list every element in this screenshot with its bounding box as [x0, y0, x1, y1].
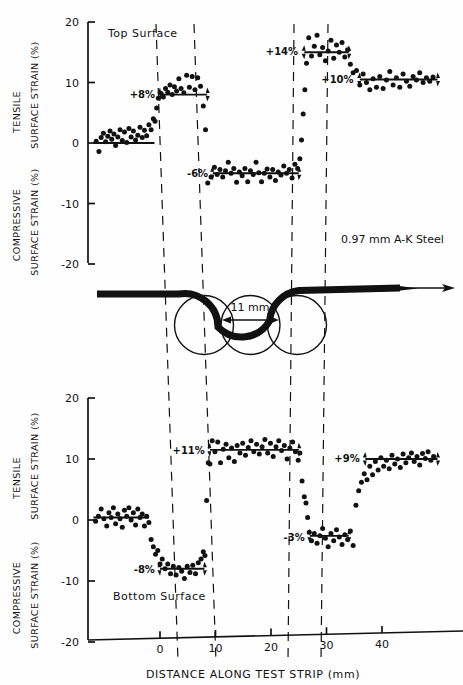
top-axis-label-compressive: COMPRESSIVE [11, 189, 22, 261]
data-point [320, 45, 325, 50]
data-point [412, 459, 417, 464]
data-point [381, 86, 386, 91]
data-point [299, 137, 304, 142]
data-point [348, 62, 353, 67]
data-point [254, 442, 259, 447]
bottom-y-tick-label-20: 20 [65, 392, 79, 405]
data-point [215, 172, 220, 177]
data-point [190, 563, 195, 568]
data-point [420, 451, 425, 456]
data-point [345, 47, 350, 52]
plateau-arrow-1-4-1 [436, 452, 440, 458]
top-y-tick-label-10: 10 [65, 77, 79, 90]
data-point [118, 516, 123, 521]
data-point [276, 438, 281, 443]
material-note-label: 0.97 mm A-K Steel [341, 233, 444, 246]
data-point [163, 566, 168, 571]
data-point [187, 570, 192, 575]
data-point [115, 134, 120, 139]
data-point [307, 530, 312, 535]
data-point [245, 179, 250, 184]
figure-root: 20100-10-2020100-10-20010203040+8%-6%+14… [0, 0, 463, 685]
data-point [295, 166, 300, 171]
data-point [376, 467, 381, 472]
data-point [254, 160, 259, 165]
data-point [356, 488, 361, 493]
data-point [243, 453, 248, 458]
bottom-axis-label-compressive: COMPRESSIVE [11, 562, 22, 634]
data-point [99, 507, 104, 512]
data-point [290, 439, 295, 444]
data-point [262, 437, 267, 442]
data-point [271, 454, 276, 459]
projection-line-3 [321, 24, 328, 662]
data-point [340, 40, 345, 45]
data-point [113, 143, 118, 148]
top-y-tick-label-0: 0 [72, 137, 79, 150]
data-point [398, 465, 403, 470]
data-point [305, 515, 310, 520]
data-point [392, 461, 397, 466]
data-point [260, 444, 265, 449]
data-point [414, 78, 419, 83]
data-point [359, 480, 364, 485]
data-point [202, 553, 207, 558]
data-point [240, 173, 245, 178]
data-point [149, 537, 154, 542]
bottom-surface-label: Bottom Surface [113, 590, 206, 603]
gap-dimension-label: 11 mm [231, 301, 270, 314]
data-point [240, 441, 245, 446]
bottom-x-tick-label-0: 0 [157, 643, 164, 656]
data-point [179, 86, 184, 91]
plateau-annotation-top-1: -6% [187, 168, 208, 179]
data-point [270, 167, 275, 172]
data-point [218, 460, 223, 465]
data-point [431, 454, 436, 459]
data-point [409, 450, 414, 455]
data-point [334, 527, 339, 532]
data-point [146, 122, 151, 127]
plateau-arrow-b-1-1-1 [203, 570, 207, 576]
data-point [423, 456, 428, 461]
data-point [334, 42, 339, 47]
data-point [362, 471, 367, 476]
data-point [231, 166, 236, 171]
data-point [361, 72, 366, 77]
data-point [427, 79, 432, 84]
data-point [401, 452, 406, 457]
plateau-arrow-0-3-0 [302, 45, 306, 51]
data-point [312, 44, 317, 49]
data-point [262, 171, 267, 176]
data-point [285, 457, 290, 462]
data-point [153, 119, 158, 124]
plateau-arrow-1-1-1 [203, 562, 207, 568]
data-point [161, 95, 166, 100]
bottom-x-tick-label-20: 20 [264, 641, 278, 654]
data-point [389, 453, 394, 458]
data-point [337, 535, 342, 540]
data-point [109, 137, 114, 142]
data-point [273, 178, 278, 183]
data-point [315, 541, 320, 546]
plateau-arrow-b-0-3-1 [347, 54, 351, 60]
data-point [234, 180, 239, 185]
data-point [401, 72, 406, 77]
data-point [129, 134, 134, 139]
data-point [201, 104, 206, 109]
top-y-tick-label-20: 20 [65, 16, 79, 29]
data-point [421, 80, 426, 85]
data-point [113, 521, 118, 526]
x-axis-title: DISTANCE ALONG TEST STRIP (mm) [146, 668, 360, 681]
data-point [426, 449, 431, 454]
data-point [158, 561, 163, 566]
data-point [340, 542, 345, 547]
data-point [374, 85, 379, 90]
gap-arrow-left [222, 317, 231, 324]
data-point [274, 444, 279, 449]
data-point [96, 149, 101, 154]
data-point [101, 131, 106, 136]
data-point [345, 537, 350, 542]
data-point [317, 533, 322, 538]
bottom-axis-label-surface-strain: SURFACE STRAIN (%) [29, 412, 40, 519]
data-point [309, 53, 314, 58]
